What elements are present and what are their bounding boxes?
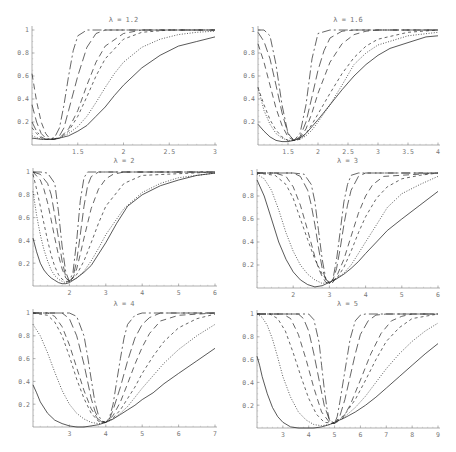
y-tick-label: 0.8 bbox=[17, 49, 29, 57]
series-dash-medium bbox=[32, 30, 215, 139]
y-tick-label: 0.6 bbox=[17, 72, 29, 80]
figure: λ = 1.21.522.530.20.40.60.81λ = 1.61.522… bbox=[0, 0, 456, 452]
y-tick-label: 0.8 bbox=[242, 192, 254, 200]
y-tick-label: 0.6 bbox=[243, 72, 255, 80]
y-tick-label: 0.2 bbox=[243, 118, 255, 126]
series-dash-short bbox=[257, 314, 438, 423]
y-tick-label: 1 bbox=[250, 169, 254, 177]
y-tick-label: 0.8 bbox=[18, 332, 30, 340]
x-tick-label: 1.5 bbox=[72, 148, 84, 156]
y-tick-label: 0.4 bbox=[242, 238, 254, 246]
series-dash-dot-long bbox=[33, 172, 215, 281]
y-tick-label: 0.2 bbox=[18, 401, 30, 409]
series-dotted bbox=[257, 314, 438, 426]
x-tick-label: 2 bbox=[67, 289, 71, 297]
x-tick-label: 2.5 bbox=[163, 148, 175, 156]
series-dash-long bbox=[258, 30, 438, 140]
series-dash-long bbox=[257, 314, 438, 423]
series-solid bbox=[257, 180, 438, 287]
y-tick-label: 1 bbox=[26, 309, 30, 317]
y-tick-label: 0.2 bbox=[17, 118, 29, 126]
series-solid bbox=[258, 36, 438, 142]
panel-title: λ = 5 bbox=[337, 300, 358, 308]
series-dash-dot-long bbox=[257, 173, 438, 283]
y-tick-label: 1 bbox=[250, 310, 254, 318]
series-dash-short bbox=[33, 313, 215, 422]
x-tick-label: 3 bbox=[213, 148, 217, 156]
y-tick-label: 1 bbox=[25, 26, 29, 34]
x-tick-label: 2 bbox=[291, 291, 295, 299]
y-tick-label: 0.6 bbox=[242, 215, 254, 223]
x-tick-label: 6 bbox=[436, 291, 440, 299]
series-dash-long bbox=[257, 173, 438, 283]
x-tick-label: 3 bbox=[327, 291, 331, 299]
chart-panel-4: λ = 3234560.20.40.60.81 bbox=[242, 157, 440, 299]
y-tick-label: 1 bbox=[251, 26, 255, 34]
x-tick-label: 3 bbox=[104, 289, 108, 297]
x-tick-label: 5 bbox=[400, 291, 404, 299]
series-dash-dot-long bbox=[257, 314, 438, 423]
x-tick-label: 5 bbox=[177, 289, 181, 297]
series-dash-dot-long bbox=[33, 313, 215, 422]
y-tick-label: 0.8 bbox=[243, 49, 255, 57]
panel-title: λ = 2 bbox=[113, 157, 134, 165]
x-tick-label: 8 bbox=[410, 431, 414, 439]
panel-title: λ = 1.6 bbox=[333, 16, 363, 24]
y-tick-label: 0.2 bbox=[242, 261, 254, 269]
chart-panel-6: λ = 534567890.20.40.60.81 bbox=[242, 300, 440, 439]
y-tick-label: 0.4 bbox=[18, 378, 30, 386]
x-tick-label: 1.5 bbox=[282, 148, 294, 156]
x-tick-label: 6 bbox=[358, 431, 362, 439]
series-dash-short bbox=[257, 173, 438, 282]
x-tick-label: 4 bbox=[140, 289, 144, 297]
y-tick-label: 0.6 bbox=[18, 214, 30, 222]
series-dash-medium bbox=[257, 173, 438, 283]
x-tick-label: 6 bbox=[213, 289, 217, 297]
panel-title: λ = 4 bbox=[113, 300, 134, 308]
x-tick-label: 3 bbox=[281, 431, 285, 439]
x-tick-label: 2.5 bbox=[342, 148, 354, 156]
x-tick-label: 7 bbox=[213, 430, 217, 438]
y-tick-label: 0.6 bbox=[242, 356, 254, 364]
series-dash-short bbox=[32, 30, 215, 139]
y-tick-label: 0.6 bbox=[18, 355, 30, 363]
x-tick-label: 5 bbox=[333, 431, 337, 439]
y-tick-label: 0.4 bbox=[18, 237, 30, 245]
x-tick-label: 6 bbox=[177, 430, 181, 438]
x-tick-label: 5 bbox=[140, 430, 144, 438]
chart-panel-2: λ = 1.61.522.533.540.20.40.60.81 bbox=[243, 16, 440, 156]
x-tick-label: 2 bbox=[122, 148, 126, 156]
y-tick-label: 0.4 bbox=[242, 379, 254, 387]
x-tick-label: 3.5 bbox=[402, 148, 414, 156]
series-dotted bbox=[257, 174, 438, 283]
series-dash-long bbox=[33, 313, 215, 422]
panel-title: λ = 3 bbox=[337, 157, 358, 165]
series-solid bbox=[32, 37, 215, 139]
series-solid bbox=[33, 348, 215, 427]
x-tick-label: 3 bbox=[376, 148, 380, 156]
y-tick-label: 0.4 bbox=[17, 95, 29, 103]
x-tick-label: 2 bbox=[316, 148, 320, 156]
series-solid bbox=[257, 344, 438, 428]
x-tick-label: 3 bbox=[67, 430, 71, 438]
y-tick-label: 0.8 bbox=[242, 333, 254, 341]
x-tick-label: 4 bbox=[436, 148, 440, 156]
x-tick-label: 4 bbox=[307, 431, 311, 439]
x-tick-label: 4 bbox=[104, 430, 108, 438]
y-tick-label: 0.4 bbox=[243, 95, 255, 103]
series-dash-dot-long bbox=[32, 30, 215, 139]
y-tick-label: 0.2 bbox=[18, 260, 30, 268]
panel-title: λ = 1.2 bbox=[109, 16, 139, 24]
series-dash-long bbox=[32, 30, 215, 139]
y-tick-label: 0.8 bbox=[18, 191, 30, 199]
y-tick-label: 1 bbox=[26, 168, 30, 176]
x-tick-label: 7 bbox=[384, 431, 388, 439]
chart-panel-1: λ = 1.21.522.530.20.40.60.81 bbox=[17, 16, 217, 156]
x-tick-label: 4 bbox=[364, 291, 368, 299]
series-dash-medium bbox=[33, 313, 215, 422]
series-dash-medium bbox=[257, 314, 438, 423]
y-tick-label: 0.2 bbox=[242, 402, 254, 410]
x-tick-label: 9 bbox=[436, 431, 440, 439]
chart-panel-3: λ = 2234560.20.40.60.81 bbox=[18, 157, 217, 297]
chart-panel-5: λ = 4345670.20.40.60.81 bbox=[18, 300, 217, 438]
